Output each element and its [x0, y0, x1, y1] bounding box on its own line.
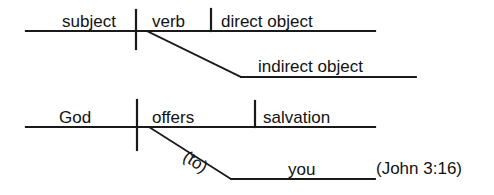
- label-direct-object-salvation: salvation: [263, 109, 330, 126]
- label-indirect-object: indirect object: [258, 58, 363, 75]
- sentence-diagram-figure: subject verb direct object indirect obje…: [0, 0, 494, 195]
- label-indirect-object-you: you: [288, 161, 315, 178]
- label-verb-offers: offers: [152, 109, 194, 126]
- indirect-object-slant-top: [147, 31, 241, 77]
- label-verb: verb: [152, 13, 185, 30]
- label-subject-god: God: [59, 109, 91, 126]
- label-direct-object: direct object: [221, 13, 313, 30]
- scripture-citation: (John 3:16): [376, 160, 462, 177]
- label-subject: subject: [62, 13, 116, 30]
